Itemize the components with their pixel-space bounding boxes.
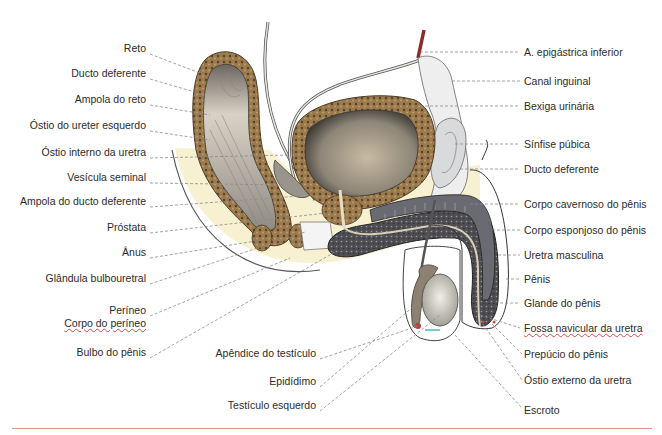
label-ampola-reto: Ampola do reto	[75, 93, 146, 105]
testis	[422, 274, 458, 326]
label-reto: Reto	[124, 42, 146, 54]
label-uretra-masculina: Uretra masculina	[524, 249, 603, 261]
label-anus: Ânus	[122, 246, 146, 258]
label-corpo-esponjoso: Corpo esponjoso do pênis	[524, 224, 646, 236]
label-sinfise-pubica: Sínfise púbica	[524, 138, 590, 150]
label-ostio-interno-uretra: Óstio interno da uretra	[42, 146, 146, 158]
label-bulbo-penis: Bulbo do pênis	[77, 346, 146, 358]
label-corpo-perineo: Corpo do períneo	[64, 317, 146, 329]
label-escroto: Escroto	[524, 404, 560, 416]
label-epididimo: Epidídimo	[269, 375, 316, 387]
label-testiculo-esquerdo: Testículo esquerdo	[228, 399, 316, 411]
label-ducto-deferente: Ducto deferente	[71, 67, 146, 79]
bladder-lumen	[305, 110, 418, 196]
label-perineo: Períneo	[109, 304, 146, 316]
label-ampola-ducto-deferente: Ampola do ducto deferente	[20, 195, 146, 207]
anal-sphincter	[252, 225, 272, 251]
label-bexiga: Bexiga urinária	[524, 100, 594, 112]
bottom-divider	[12, 428, 652, 429]
label-prepucio: Prepúcio do pênis	[524, 348, 608, 360]
label-corpo-cavernoso: Corpo cavernoso do pênis	[524, 198, 647, 210]
label-vesicula-seminal: Vesícula seminal	[67, 171, 146, 183]
label-fossa-navicular: Fossa navicular da uretra	[524, 322, 642, 334]
label-glande: Glande do pênis	[524, 297, 600, 309]
label-penis: Pênis	[524, 273, 550, 285]
label-canal-inguinal: Canal inguinal	[524, 75, 591, 87]
appendix-testis	[415, 323, 421, 329]
label-a-epigastrica: A. epigástrica inferior	[524, 46, 623, 58]
label-ostio-ureter: Óstio do ureter esquerdo	[30, 119, 146, 131]
sagittal-section-illustration	[0, 0, 662, 435]
epigastric-artery	[418, 30, 424, 58]
anatomy-figure: Reto Ducto deferente Ampola do reto Ósti…	[0, 0, 662, 435]
label-glandula-bulbouretral: Glândula bulbouretral	[46, 272, 146, 284]
label-apendice-testiculo: Apêndice do testículo	[216, 347, 316, 359]
label-ostio-externo: Óstio externo da uretra	[524, 374, 631, 386]
label-prostata: Próstata	[107, 221, 146, 233]
label-ducto-deferente-right: Ducto deferente	[524, 163, 599, 175]
